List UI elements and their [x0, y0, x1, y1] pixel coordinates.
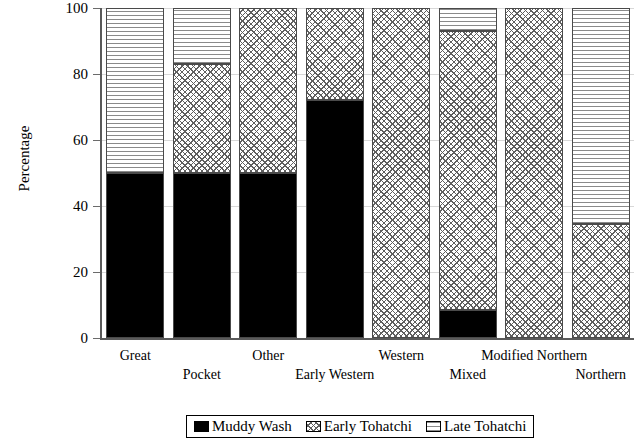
bar-stack[interactable] — [306, 8, 364, 338]
x-axis-label: Northern — [521, 368, 642, 382]
plot-area — [102, 8, 634, 338]
bar-stack[interactable] — [239, 8, 297, 338]
legend-swatch-icon — [426, 421, 441, 432]
y-tick-label: 60 — [48, 133, 88, 148]
chart-legend: Muddy WashEarly TohatchiLate Tohatchi — [186, 415, 534, 438]
y-tick-label: 80 — [48, 67, 88, 82]
bar-segment[interactable] — [306, 100, 364, 338]
bar-stack[interactable] — [505, 8, 563, 338]
bar-segment[interactable] — [106, 173, 164, 338]
bar-segment[interactable] — [239, 8, 297, 173]
bar-stack[interactable] — [572, 8, 630, 338]
y-tick-label: 100 — [48, 1, 88, 16]
bar-segment[interactable] — [572, 224, 630, 338]
bar-segment[interactable] — [439, 8, 497, 31]
legend-swatch-icon — [306, 421, 321, 432]
legend-item[interactable]: Early Tohatchi — [306, 419, 412, 434]
x-axis-label: Modified Northern — [454, 349, 614, 363]
bar-stack[interactable] — [439, 8, 497, 338]
bar-segment[interactable] — [505, 8, 563, 338]
legend-label: Early Tohatchi — [324, 419, 412, 434]
y-tick-label: 20 — [48, 265, 88, 280]
bar-segment[interactable] — [439, 31, 497, 310]
legend-swatch-icon — [194, 421, 209, 432]
x-axis-line — [100, 338, 634, 340]
bar-segment[interactable] — [239, 173, 297, 338]
legend-item[interactable]: Muddy Wash — [194, 419, 292, 434]
bar-segment[interactable] — [439, 310, 497, 338]
y-axis-title: Percentage — [16, 79, 33, 239]
bar-segment[interactable] — [572, 8, 630, 224]
bar-segment[interactable] — [173, 8, 231, 64]
bar-segment[interactable] — [106, 8, 164, 173]
bar-segment[interactable] — [306, 8, 364, 100]
legend-label: Late Tohatchi — [444, 419, 526, 434]
bar-segment[interactable] — [173, 64, 231, 173]
bar-segment[interactable] — [372, 8, 430, 338]
bar-stack[interactable] — [106, 8, 164, 338]
bar-stack[interactable] — [173, 8, 231, 338]
stacked-bar-chart: Percentage 020406080100 GreatPocketOther… — [0, 0, 642, 447]
y-tick-label: 0 — [48, 331, 88, 346]
legend-item[interactable]: Late Tohatchi — [426, 419, 526, 434]
bar-segment[interactable] — [173, 173, 231, 338]
y-tick-label: 40 — [48, 199, 88, 214]
bar-stack[interactable] — [372, 8, 430, 338]
legend-label: Muddy Wash — [212, 419, 292, 434]
